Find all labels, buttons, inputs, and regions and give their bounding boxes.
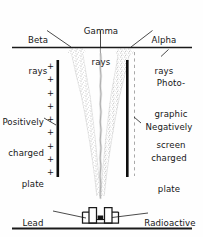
label-positively-charged-plate-line2: charged [0,148,44,158]
label-alpha-rays-line1: Alpha [141,35,187,45]
plus-sign: + [45,168,56,176]
label-gamma-rays-line2: rays [73,57,129,67]
label-beta-rays-line1: Beta [16,35,60,45]
plus-sign: + [45,142,56,150]
plus-sign: + [45,75,56,83]
radioactivity-deflection-diagram: Beta rays Gamma rays Alpha rays Photo- g… [0,0,203,237]
label-gamma-rays: Gamma rays [73,5,129,88]
label-negatively-charged-plate-line2: charged [138,153,200,163]
positive-charge-symbols: +++++++++ [45,62,56,176]
label-positively-charged-plate-line3: plate [0,179,44,189]
label-positively-charged-plate-line1: Positively [0,117,44,127]
label-radioactive-substances: Radioactive substances [138,197,202,237]
negative-charge-symbols [129,62,140,176]
label-photographic-screen-line1: Photo- [142,78,200,88]
label-negatively-charged-plate-line3: plate [138,184,200,194]
label-radioactive-substances-line1: Radioactive [138,218,202,228]
radioactive-source [98,216,104,221]
label-gamma-rays-line1: Gamma [73,26,129,36]
plus-sign: + [45,115,56,123]
plus-sign: + [45,155,56,163]
lead-container [83,208,119,224]
plus-sign: + [45,89,56,97]
plus-sign: + [45,62,56,70]
label-positively-charged-plate: Positively charged plate [0,96,44,210]
label-negatively-charged-plate-line1: Negatively [138,122,200,132]
plus-sign: + [45,128,56,136]
plus-sign: + [45,102,56,110]
label-lead-container-line1: Lead [5,218,61,228]
label-lead-container: Lead container [5,197,61,237]
